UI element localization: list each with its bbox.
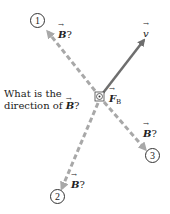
question-mark: ?	[79, 179, 84, 190]
b-vector-symbol: B	[143, 128, 151, 139]
question-prefix: direction of	[4, 100, 66, 111]
question-mark: ?	[66, 29, 71, 40]
b-vector-symbol: B	[66, 100, 74, 111]
b-candidate-label-3: B?	[143, 129, 157, 139]
force-label: FB	[109, 94, 121, 106]
b-candidate-label-1: B?	[58, 30, 72, 40]
question-mark: ?	[74, 100, 79, 111]
out-of-page-icon	[95, 92, 104, 101]
force-subscript: B	[116, 98, 121, 106]
v-vector-symbol: v	[143, 28, 149, 39]
physics-diagram: 1 2 3 B? B? B? v FB What is the directio…	[0, 0, 170, 214]
b-candidate-arrow-2	[62, 103, 98, 188]
candidate-marker-1: 1	[30, 13, 45, 28]
question-line-2: direction of B?	[4, 100, 79, 112]
b-vector-symbol: B	[58, 29, 66, 40]
velocity-label: v	[143, 29, 149, 39]
b-vector-symbol: B	[71, 179, 79, 190]
question-text: What is the direction of B?	[4, 88, 79, 112]
candidate-marker-3: 3	[145, 148, 160, 163]
b-candidate-label-2: B?	[71, 180, 85, 190]
question-mark: ?	[151, 128, 156, 139]
candidate-marker-2: 2	[50, 189, 65, 204]
b-candidate-arrow-3	[104, 102, 145, 149]
f-vector-symbol: F	[109, 93, 116, 104]
